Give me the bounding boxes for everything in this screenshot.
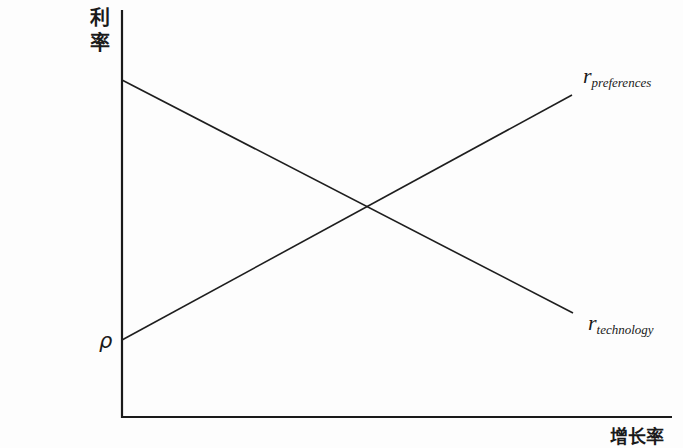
preferences-curve	[122, 95, 572, 340]
diagram-canvas	[0, 0, 683, 448]
preferences-label-main: r	[583, 63, 592, 88]
preferences-label-sub: preferences	[592, 75, 652, 90]
technology-curve	[122, 80, 573, 313]
growth-interest-diagram: 利 率 增长率 ρ rpreferences rtechnology	[0, 0, 683, 448]
technology-label-main: r	[588, 310, 597, 335]
technology-curve-label: rtechnology	[588, 310, 654, 336]
x-axis-label: 增长率	[610, 422, 664, 448]
rho-intercept-label: ρ	[99, 329, 112, 353]
y-axis-label-char-1: 利	[86, 6, 114, 31]
preferences-curve-label: rpreferences	[583, 63, 651, 89]
y-axis-label-char-2: 率	[86, 31, 114, 56]
y-axis-label: 利 率	[86, 6, 114, 56]
technology-label-sub: technology	[597, 322, 654, 337]
